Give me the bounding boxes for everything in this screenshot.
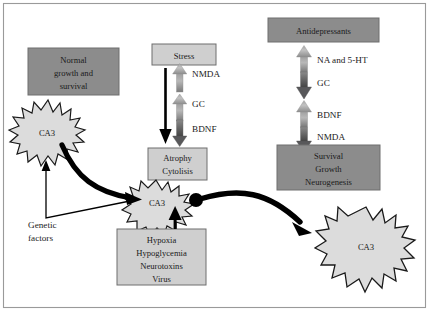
curved-arrow-atrophy-to-ca3 xyxy=(62,145,142,205)
box-normal-growth-line-1: growth and xyxy=(54,68,94,78)
pathway-label-nmda-stress: NMDA xyxy=(192,69,220,79)
box-atrophy: Atrophy Cytolisis xyxy=(148,148,207,180)
starburst-ca3-center-label: CA3 xyxy=(149,198,165,208)
box-insults-line-3: Virus xyxy=(152,274,171,284)
pathway-arrow-gc-antidep xyxy=(297,72,312,99)
starburst-ca3-left: CA3 xyxy=(9,100,85,166)
box-stress-line-0: Stress xyxy=(174,51,195,61)
box-atrophy-line-0: Atrophy xyxy=(163,153,192,163)
pathway-arrow-bdnf-stress xyxy=(173,120,187,147)
box-atrophy-line-1: Cytolisis xyxy=(162,166,193,176)
starburst-ca3-center: CA3 xyxy=(122,180,194,236)
box-survival-line-1: Growth xyxy=(315,164,342,174)
box-normal-growth: Normal growth and survival xyxy=(28,48,119,95)
box-antidepressants: Antidepressants xyxy=(268,18,379,42)
curved-arrow-ca3-to-ca3-right xyxy=(189,193,312,236)
genetic-factors-line-0: Genetic xyxy=(28,220,57,230)
box-insults-line-2: Neurotoxins xyxy=(140,261,183,271)
pathway-label-bdnf-antidep: BDNF xyxy=(317,110,342,120)
pathway-label-nmda-antidep: NMDA xyxy=(317,132,345,142)
starburst-ca3-left-label: CA3 xyxy=(39,128,55,138)
box-survival-growth: Survival Growth Neurogenesis xyxy=(277,145,380,190)
box-insults-line-0: Hypoxia xyxy=(147,235,177,245)
diagram-canvas: Normal growth and survival CA3 Stress NM… xyxy=(0,0,429,311)
box-survival-line-2: Neurogenesis xyxy=(305,177,352,187)
box-insults-line-1: Hypoglycemia xyxy=(136,248,187,258)
pathway-label-gc-antidep: GC xyxy=(317,78,330,88)
starburst-ca3-right: CA3 xyxy=(315,207,415,292)
box-survival-line-0: Survival xyxy=(314,151,344,161)
starburst-ca3-right-label: CA3 xyxy=(358,242,374,252)
pathway-arrow-gc-stress xyxy=(173,94,187,121)
pathway-label-gc-stress: GC xyxy=(192,99,205,109)
box-normal-growth-line-0: Normal xyxy=(60,55,87,65)
box-antidepressants-line-0: Antidepressants xyxy=(296,26,352,36)
pathway-label-bdnf-stress: BDNF xyxy=(192,124,217,134)
pathway-arrow-nmda-stress xyxy=(173,64,187,93)
diagram-svg: Normal growth and survival CA3 Stress NM… xyxy=(0,0,429,311)
box-insults: Hypoxia Hypoglycemia Neurotoxins Virus xyxy=(117,229,206,285)
box-stress: Stress xyxy=(152,44,216,65)
trunk-arrow-down xyxy=(159,68,171,144)
genetic-factors-line-1: factors xyxy=(28,233,53,243)
pathway-label-na-5ht: NA and 5-HT xyxy=(317,55,368,65)
genetic-factors-connector xyxy=(42,160,130,218)
pathway-arrow-bdnf-antidep xyxy=(297,101,312,128)
pathway-arrow-na-5ht xyxy=(297,46,312,73)
box-normal-growth-line-2: survival xyxy=(60,81,88,91)
